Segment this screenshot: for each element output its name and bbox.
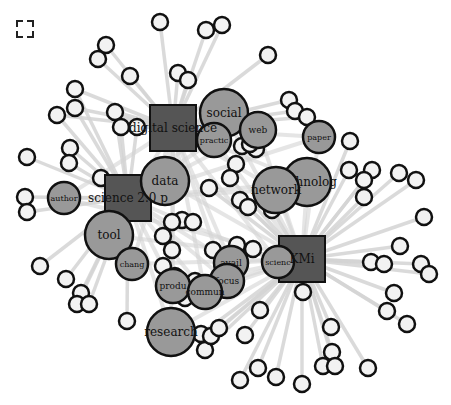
leaf-node[interactable]: [237, 327, 253, 343]
topic-label: tool: [97, 228, 120, 242]
leaf-node[interactable]: [323, 319, 339, 335]
leaf-node[interactable]: [360, 360, 376, 376]
leaf-node[interactable]: [356, 172, 372, 188]
leaf-node[interactable]: [122, 68, 138, 84]
leaf-node[interactable]: [245, 241, 261, 257]
network-graph[interactable]: socialpracticwebpapertechnolognetworkdat…: [0, 0, 451, 405]
fullscreen-corner-bl: [16, 31, 23, 38]
leaf-node[interactable]: [342, 133, 358, 149]
leaf-node[interactable]: [19, 204, 35, 220]
topic-label: chang: [120, 260, 145, 269]
leaf-node[interactable]: [356, 189, 372, 205]
leaf-node[interactable]: [152, 14, 168, 30]
topic-node-produ[interactable]: produ: [156, 269, 190, 303]
hub-label: digital science: [129, 121, 217, 135]
leaf-node[interactable]: [260, 47, 276, 63]
leaf-node[interactable]: [201, 180, 217, 196]
leaf-node[interactable]: [214, 17, 230, 33]
leaf-node[interactable]: [90, 51, 106, 67]
topic-label: research: [144, 325, 198, 339]
leaf-node[interactable]: [62, 140, 78, 156]
leaf-node[interactable]: [268, 369, 284, 385]
topic-node-paper[interactable]: paper: [303, 121, 335, 153]
leaf-node[interactable]: [81, 296, 97, 312]
leaf-node[interactable]: [67, 100, 83, 116]
topic-label: web: [249, 125, 268, 135]
topic-node-author[interactable]: author: [48, 182, 80, 214]
leaf-node[interactable]: [211, 320, 227, 336]
leaf-node[interactable]: [416, 209, 432, 225]
leaf-node[interactable]: [327, 358, 343, 374]
leaf-node[interactable]: [295, 284, 311, 300]
leaf-node[interactable]: [392, 238, 408, 254]
leaf-node[interactable]: [252, 302, 268, 318]
leaf-node[interactable]: [19, 149, 35, 165]
leaf-node[interactable]: [49, 107, 65, 123]
leaf-node[interactable]: [58, 271, 74, 287]
hub-label: science 2.0 p: [88, 191, 168, 205]
leaf-node[interactable]: [61, 155, 77, 171]
leaf-node[interactable]: [32, 258, 48, 274]
leaf-node[interactable]: [376, 256, 392, 272]
leaf-node[interactable]: [399, 316, 415, 332]
fullscreen-corner-tr: [27, 20, 34, 27]
fullscreen-corner-tl: [16, 20, 23, 27]
topic-node-chang[interactable]: chang: [116, 248, 148, 280]
topic-label: scienc: [265, 258, 291, 267]
leaf-node[interactable]: [67, 81, 83, 97]
leaf-node[interactable]: [17, 189, 33, 205]
leaf-node[interactable]: [113, 119, 129, 135]
topic-label: network: [251, 183, 302, 197]
leaf-node[interactable]: [386, 285, 402, 301]
leaf-node[interactable]: [232, 372, 248, 388]
leaf-node[interactable]: [185, 214, 201, 230]
leaf-node[interactable]: [164, 242, 180, 258]
leaf-node[interactable]: [250, 360, 266, 376]
topic-label: commun: [185, 287, 224, 297]
leaf-node[interactable]: [222, 170, 238, 186]
leaf-node[interactable]: [119, 313, 135, 329]
leaf-node[interactable]: [294, 376, 310, 392]
fullscreen-corner-br: [27, 31, 34, 38]
leaf-node[interactable]: [421, 266, 437, 282]
topic-label: paper: [307, 133, 331, 142]
topic-label: author: [51, 194, 78, 203]
topic-node-research[interactable]: research: [144, 308, 198, 356]
leaf-node[interactable]: [180, 72, 196, 88]
leaf-node[interactable]: [107, 104, 123, 120]
fullscreen-icon[interactable]: [16, 20, 34, 38]
topic-label: data: [152, 174, 179, 188]
topic-label: social: [207, 106, 242, 120]
topic-label: practic: [200, 136, 229, 145]
leaf-node[interactable]: [198, 22, 214, 38]
leaf-node[interactable]: [391, 165, 407, 181]
topic-label: produ: [159, 281, 186, 291]
topic-node-web[interactable]: web: [240, 112, 276, 148]
leaf-node[interactable]: [240, 199, 256, 215]
leaf-node[interactable]: [341, 162, 357, 178]
hub-label: KMi: [289, 252, 314, 266]
leaf-node[interactable]: [408, 172, 424, 188]
leaf-node[interactable]: [379, 303, 395, 319]
